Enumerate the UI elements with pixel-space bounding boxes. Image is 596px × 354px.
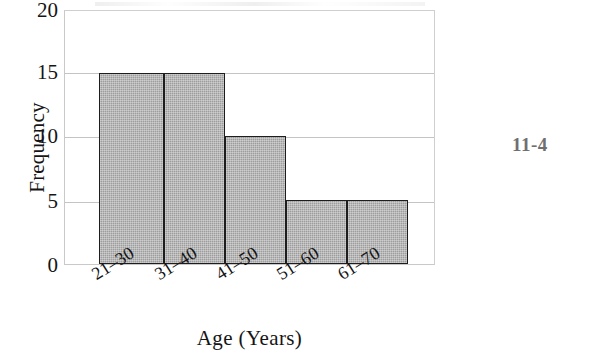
y-tick-label-20: 20 <box>0 0 58 21</box>
y-tick-label-10: 10 <box>0 126 58 147</box>
histogram-figure: Frequency 20 15 10 5 0 21–30 31–40 41–50… <box>0 0 596 354</box>
scan-artifact <box>95 2 425 6</box>
x-axis-title: Age (Years) <box>64 326 435 351</box>
x-tick-labels: 21–30 31–40 41–50 51–60 61–70 <box>0 267 596 327</box>
y-tick-label-5: 5 <box>0 191 58 212</box>
y-tick-label-15: 15 <box>0 62 58 83</box>
plot-area <box>64 10 435 265</box>
bar-series <box>65 11 434 264</box>
corner-note: 11-4 <box>512 134 548 156</box>
